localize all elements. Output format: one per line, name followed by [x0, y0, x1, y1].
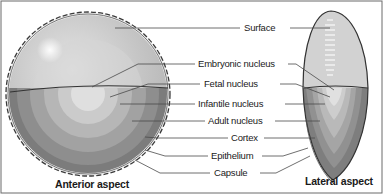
label-embryonic-nucleus: Embryonic nucleus [196, 58, 277, 69]
label-fetal-nucleus: Fetal nucleus [202, 78, 260, 89]
label-adult-nucleus: Adult nucleus [206, 115, 264, 126]
lens-illustration [0, 0, 383, 194]
label-infantile-nucleus: Infantile nucleus [196, 98, 265, 109]
caption-anterior-aspect: Anterior aspect [55, 178, 129, 190]
label-surface: Surface [242, 22, 277, 33]
caption-lateral-aspect: Lateral aspect [305, 175, 373, 187]
anterior-lens [6, 12, 170, 176]
lateral-lens [280, 0, 383, 194]
label-cortex: Cortex [229, 132, 260, 143]
lens-diagram: Surface Embryonic nucleus Fetal nucleus … [0, 0, 383, 194]
label-capsule: Capsule [212, 167, 249, 178]
label-epithelium: Epithelium [209, 150, 255, 161]
